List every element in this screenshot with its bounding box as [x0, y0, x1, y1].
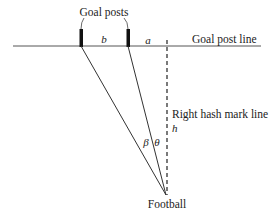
sight-line-right-post — [128, 46, 166, 195]
sight-line-left-post — [81, 46, 166, 195]
left-goal-post — [80, 29, 84, 47]
goal-post-line-label: Goal post line — [192, 33, 257, 46]
angle-beta-label: β — [142, 136, 149, 148]
leader-line-right — [124, 18, 128, 29]
football-geometry-diagram: Goal posts b a Goal post line Right hash… — [0, 0, 270, 219]
right-goal-post — [127, 29, 131, 47]
variable-a-label: a — [145, 34, 151, 46]
leader-line-left — [81, 18, 84, 29]
angle-theta-label: θ — [154, 136, 160, 148]
football-label: Football — [148, 198, 186, 210]
right-hash-mark-line-label: Right hash mark line — [172, 108, 268, 121]
goal-posts-label: Goal posts — [80, 6, 129, 19]
variable-b-label: b — [101, 33, 107, 45]
variable-h-label: h — [172, 122, 178, 134]
